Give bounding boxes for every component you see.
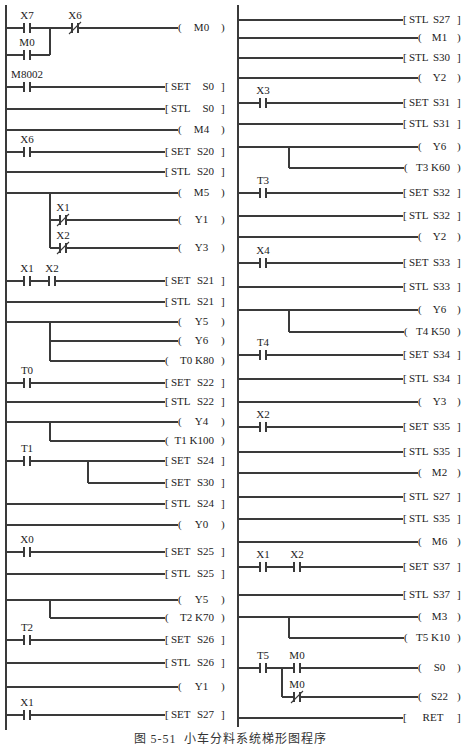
coil-close: ) [457,610,461,623]
coil-label: M2 [432,466,447,478]
instruction-block: [SETS35] [403,420,461,432]
output-coil: (Y6) [178,334,225,347]
output-coil: (M1) [418,31,461,44]
contact-label: X1 [56,201,69,213]
coil-label: Y5 [195,315,209,327]
instruction-op: SET [409,420,429,432]
contact-label: T2 [21,621,33,633]
instruction-operand: S32 [433,209,450,221]
instruction-op: SET [409,186,429,198]
instruction-op: STL [171,497,191,509]
coil-open: ( [165,611,169,624]
output-coil: (M2) [418,466,461,479]
bracket-close: ] [221,497,225,509]
instruction-op: SET [409,256,429,268]
coil-close: ) [457,661,461,674]
rung: X7X6(M0) [6,9,225,34]
instruction-op: SET [171,454,191,466]
coil-open: ( [178,334,182,347]
ladder-panel-right: [STLS27](M1)[STLS30](Y2)X3[SETS31][STLS3… [238,5,461,727]
instruction-block: [STLS35] [403,445,461,457]
rung: M8002[SETS0] [6,68,225,92]
bracket-close: ] [457,512,461,524]
rung: (M3) [238,610,461,623]
output-coil: (Y2) [418,230,461,243]
rung: X1[SETS27] [6,696,225,720]
normally-open-contact-icon: X0 [20,533,34,557]
output-coil: (M5) [178,186,225,199]
instruction-block: [SETS34] [403,348,461,360]
instruction-block: [STLS26] [165,656,225,668]
rung: (Y2) [238,230,461,243]
bracket-close: ] [221,395,225,407]
contact-label: T0 [21,364,34,376]
bracket-open: [ [165,376,169,388]
coil-label: Y0 [195,518,209,530]
instruction-op: SET [171,545,191,557]
coil-open: ( [418,690,422,703]
instruction-operand: S21 [197,274,214,286]
bracket-open: [ [403,13,407,25]
coil-label: T5 K10 [416,631,450,643]
instruction-operand: S37 [433,588,451,600]
rung: [RET] [238,711,461,723]
instruction-block: [STLS0] [165,102,225,114]
instruction-operand: S34 [433,372,451,384]
coil-open: ( [418,535,422,548]
rung: [STLS35] [238,512,461,524]
coil-label: Y3 [195,241,209,253]
rung: X4[SETS33] [238,244,461,268]
instruction-block: [STLS20] [165,165,225,177]
rung: (T5 K10) [289,631,461,644]
rung: [STLS27] [238,13,461,25]
rung: [STLS33] [238,280,461,292]
rung: (T2 K70) [50,611,225,624]
instruction-block: [STLS33] [403,280,461,292]
coil-label: S22 [431,690,448,702]
instruction-operand: S32 [433,186,450,198]
instruction-op: STL [409,117,429,129]
coil-close: ) [457,230,461,243]
output-coil: (Y6) [418,303,461,316]
rung: (M6) [238,535,461,548]
output-coil: (M6) [418,535,461,548]
coil-open: ( [418,140,422,153]
coil-close: ) [221,315,225,328]
instruction-operand: S24 [197,454,215,466]
normally-open-contact-icon: T5 [257,649,270,673]
coil-close: ) [457,631,461,644]
coil-close: ) [457,535,461,548]
bracket-close: ] [457,186,461,198]
rung: X1(Y1) [50,201,225,226]
instruction-block: [SETS30] [165,476,225,488]
coil-label: M6 [432,535,448,547]
rung: (Y6) [238,140,461,153]
coil-close: ) [221,593,225,606]
coil-open: ( [165,434,169,447]
instruction-block: [STLS34] [403,372,461,384]
coil-close: ) [457,325,461,338]
contact-label: M8002 [11,68,43,80]
instruction-op: SET [409,96,429,108]
bracket-close: ] [457,256,461,268]
rung: [STLS21] [6,295,225,307]
coil-open: ( [404,161,408,174]
contact-label: X2 [56,229,69,241]
bracket-open: [ [403,96,407,108]
output-coil: (Y2) [418,71,461,84]
ladder-diagram-canvas: X7X6(M0)M0M8002[SETS0][STLS0](M4)X6[SETS… [0,0,461,745]
rung: (Y5) [6,593,225,606]
output-coil: (T5 K10) [404,631,461,644]
coil-label: Y6 [433,140,447,152]
contact-label: T1 [21,442,33,454]
instruction-op: STL [171,295,191,307]
instruction-operand: S20 [197,165,215,177]
bracket-open: [ [403,117,407,129]
coil-close: ) [221,241,225,254]
instruction-operand: S30 [197,476,215,488]
coil-open: ( [178,21,182,34]
instruction-block: [STLS35] [403,512,461,524]
bracket-close: ] [221,274,225,286]
coil-open: ( [418,230,422,243]
rung: T5M0(S0) [238,649,461,674]
